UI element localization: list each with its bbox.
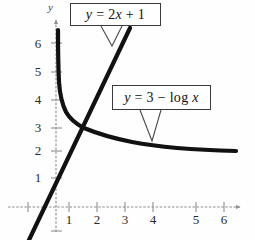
y-tick-label-3: 3 [31, 120, 45, 136]
y-tick-label-1: 1 [31, 170, 45, 186]
y-axis-label: y [48, 1, 53, 13]
x-tick-label-1: 1 [62, 212, 76, 228]
x-tick-label-2: 2 [90, 212, 104, 228]
x-tick-label-5: 5 [189, 212, 203, 228]
x-tick-label-3: 3 [118, 212, 132, 228]
callout-line-equation: y = 2x + 1 [70, 3, 161, 26]
y-tick-label-5: 5 [31, 64, 45, 80]
callout-log-equation-text: y = 3 − log x [124, 90, 199, 106]
x-tick-label-6: 6 [217, 212, 231, 228]
y-tick-label-4: 4 [31, 92, 45, 108]
y-tick-label-6: 6 [31, 36, 45, 52]
callout-pointer-log [140, 110, 161, 141]
callout-pointer-line [101, 26, 122, 46]
graph-figure: y 6 5 4 3 2 1 1 2 3 4 5 6 y = 2x + 1 y =… [0, 0, 255, 240]
callout-log-equation: y = 3 − log x [112, 85, 211, 110]
callout-line-equation-text: y = 2x + 1 [86, 7, 145, 23]
x-tick-label-4: 4 [146, 212, 160, 228]
y-tick-label-2: 2 [31, 143, 45, 159]
